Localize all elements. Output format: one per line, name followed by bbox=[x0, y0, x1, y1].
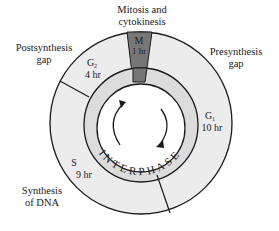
phase-s-duration: 9 hr bbox=[76, 169, 93, 180]
postsynthesis-label-line1: Postsynthesis bbox=[16, 42, 73, 53]
phase-g1-duration: 10 hr bbox=[202, 122, 224, 133]
mitosis-label-line2: cytokinesis bbox=[118, 16, 165, 27]
mitosis-wedge-inner bbox=[133, 68, 147, 82]
cell-cycle-diagram: INTERPHASE M 1 hr G1 10 hr S 9 hr G2 4 h… bbox=[0, 0, 279, 231]
mitosis-label-line1: Mitosis and bbox=[117, 4, 167, 15]
phase-m-duration: 1 hr bbox=[132, 46, 146, 56]
presynthesis-label-line2: gap bbox=[228, 58, 243, 69]
phase-s-name: S bbox=[71, 157, 77, 168]
synthesis-label-line2: of DNA bbox=[25, 197, 60, 208]
phase-m-name: M bbox=[135, 35, 144, 46]
postsynthesis-label-line2: gap bbox=[36, 54, 51, 65]
presynthesis-label-line1: Presynthesis bbox=[210, 46, 263, 57]
synthesis-label-line1: Synthesis bbox=[22, 185, 62, 196]
phase-g2-duration: 4 hr bbox=[85, 69, 102, 80]
